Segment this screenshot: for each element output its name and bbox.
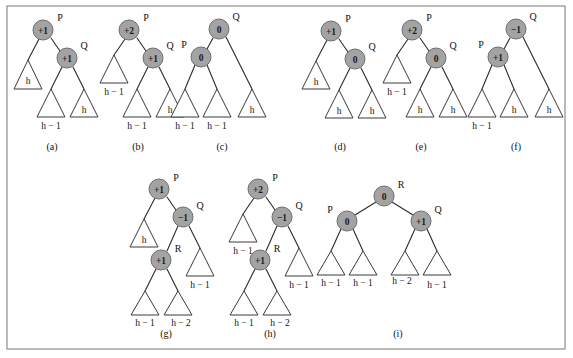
node-balance-factor: 0 xyxy=(434,54,439,64)
subtree-height-label: h − 1 xyxy=(233,246,253,256)
subtree-height-label: h xyxy=(370,106,375,116)
node-name-label: Q xyxy=(232,11,240,22)
node-balance-factor: 0 xyxy=(345,217,350,227)
node-name-label: Q xyxy=(196,200,204,211)
panel-caption-e: (e) xyxy=(415,141,426,153)
node-name-label: Q xyxy=(529,11,537,22)
subtree-height-label: h xyxy=(26,76,31,86)
node-name-label: P xyxy=(181,39,187,50)
panel-caption-f: (f) xyxy=(511,141,521,153)
node-balance-factor: +1 xyxy=(493,53,503,63)
subtree-height-label: h xyxy=(142,235,147,245)
subtree-height-label: h − 1 xyxy=(175,121,195,131)
node-name-label: R xyxy=(398,179,405,190)
subtree-height-label: h − 1 xyxy=(104,87,124,97)
node-name-label: P xyxy=(173,172,179,183)
node-balance-factor: +1 xyxy=(326,27,336,37)
subtree-height-label: h − 1 xyxy=(135,318,155,328)
panel-caption-d: (d) xyxy=(334,141,346,153)
node-name-label: P xyxy=(327,204,333,215)
subtree-height-label: h − 2 xyxy=(392,276,412,286)
subtree-height-label: h − 1 xyxy=(387,87,407,97)
subtree-height-label: h − 1 xyxy=(289,280,309,290)
node-name-label: P xyxy=(272,172,278,183)
panel-caption-h: (h) xyxy=(264,328,276,340)
node-balance-factor: +1 xyxy=(416,217,426,227)
node-balance-factor: +1 xyxy=(148,54,158,64)
node-name-label: P xyxy=(143,12,149,23)
subtree-height-label: h xyxy=(82,105,87,115)
node-name-label: R xyxy=(175,243,182,254)
node-name-label: Q xyxy=(434,204,442,215)
node-name-label: P xyxy=(478,39,484,50)
node-name-label: Q xyxy=(166,40,174,51)
figure-frame xyxy=(7,6,565,349)
subtree-height-label: h − 1 xyxy=(353,278,373,288)
node-balance-factor: −1 xyxy=(511,25,521,35)
subtree-height-label: h − 1 xyxy=(127,121,147,131)
node-balance-factor: 0 xyxy=(199,53,204,63)
subtree-height-label: h − 1 xyxy=(427,280,447,290)
panel-caption-a: (a) xyxy=(46,141,57,153)
node-balance-factor: −1 xyxy=(277,213,287,223)
node-balance-factor: +1 xyxy=(156,256,166,266)
subtree-height-label: h − 1 xyxy=(321,278,341,288)
subtree-height-label: h xyxy=(512,105,517,115)
node-balance-factor: 0 xyxy=(217,25,222,35)
node-balance-factor: +1 xyxy=(38,26,48,36)
subtree-height-label: h − 1 xyxy=(190,280,210,290)
subtree-height-label: h − 1 xyxy=(472,121,492,131)
node-name-label: P xyxy=(345,13,351,24)
subtree-height-label: h xyxy=(168,105,173,115)
subtree-height-label: h xyxy=(547,105,552,115)
node-balance-factor: 0 xyxy=(382,192,387,202)
subtree-height-label: h − 1 xyxy=(41,121,61,131)
node-name-label: Q xyxy=(80,40,88,51)
node-name-label: P xyxy=(57,12,63,23)
subtree-height-label: h xyxy=(250,105,255,115)
node-balance-factor: 0 xyxy=(353,55,358,65)
panel-caption-c: (c) xyxy=(216,141,227,153)
subtree-height-label: h xyxy=(337,106,342,116)
node-balance-factor: +1 xyxy=(255,256,265,266)
avl-rotation-figure: hh − 1h+1P+1Q(a)h − 1h − 1h+2P+1Q(b)h − … xyxy=(0,0,573,358)
subtree-height-label: h xyxy=(451,105,456,115)
node-name-label: Q xyxy=(449,40,457,51)
node-balance-factor: +2 xyxy=(407,26,417,36)
figure-root: hh − 1h+1P+1Q(a)h − 1h − 1h+2P+1Q(b)h − … xyxy=(0,0,573,358)
panel-caption-b: (b) xyxy=(132,141,144,153)
subtree-height-label: h − 1 xyxy=(207,121,227,131)
subtree-height-label: h − 1 xyxy=(234,318,254,328)
node-balance-factor: +2 xyxy=(253,185,263,195)
node-balance-factor: +2 xyxy=(124,26,134,36)
node-name-label: Q xyxy=(368,41,376,52)
node-balance-factor: −1 xyxy=(178,213,188,223)
node-name-label: R xyxy=(274,243,281,254)
panel-caption-i: (i) xyxy=(393,328,402,340)
node-balance-factor: +1 xyxy=(154,185,164,195)
panel-caption-g: (g) xyxy=(160,328,172,340)
node-name-label: P xyxy=(426,12,432,23)
node-balance-factor: +1 xyxy=(62,54,72,64)
subtree-height-label: h xyxy=(314,77,319,87)
subtree-height-label: h − 2 xyxy=(171,318,191,328)
subtree-height-label: h xyxy=(418,105,423,115)
subtree-height-label: h − 2 xyxy=(270,318,290,328)
node-name-label: Q xyxy=(295,200,303,211)
